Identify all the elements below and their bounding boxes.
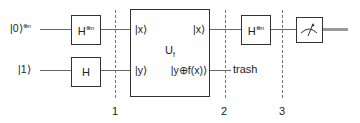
top-wire-pre-measure <box>271 29 296 30</box>
oracle-in-x: |x⟩ <box>135 23 147 35</box>
bottom-wire-out <box>209 70 231 71</box>
oracle-title: Uf <box>165 44 175 58</box>
top-wire-in <box>40 29 71 30</box>
stage-label-2: 2 <box>221 105 227 117</box>
oracle-out-y-xor-fx: |y⊕f(x)⟩ <box>171 64 207 76</box>
stage-label-1: 1 <box>112 105 118 117</box>
stage-label-3: 3 <box>279 105 285 117</box>
stage-divider-2 <box>225 10 226 98</box>
oracle-out-x: |x⟩ <box>193 23 205 35</box>
oracle-in-y: |y⟩ <box>135 64 147 76</box>
stage-divider-1 <box>115 10 116 98</box>
hadamard-n-gate-left: H⊗n <box>71 15 101 45</box>
stage-divider-3 <box>282 10 283 98</box>
input-ket-zero: |0⟩⊗n <box>10 22 31 34</box>
meter-icon <box>297 18 321 41</box>
trash-label: trash <box>233 63 257 75</box>
classical-wire <box>322 28 348 31</box>
input-ket-one: |1⟩ <box>18 63 31 75</box>
measurement-gate <box>296 17 323 43</box>
bottom-wire-in <box>40 70 71 71</box>
oracle-uf-gate: |x⟩ |y⟩ |x⟩ |y⊕f(x)⟩ Uf <box>130 9 210 97</box>
hadamard-n-gate-right: H⊗n <box>241 15 271 45</box>
hadamard-gate: H <box>71 57 101 87</box>
